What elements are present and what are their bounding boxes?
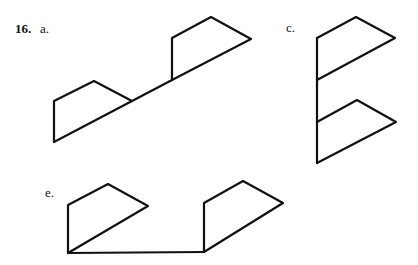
diagram-canvas: 16. a. c. e. (0, 0, 418, 265)
figures-svg (0, 0, 418, 265)
figure-a-right-flag (172, 17, 251, 80)
figure-a-baseline (54, 80, 172, 142)
figure-e-baseline (68, 252, 204, 253)
figure-c (317, 17, 396, 163)
figure-e-left-flag (68, 184, 148, 253)
figure-a (54, 17, 251, 142)
figure-c-bottom-flag (317, 100, 396, 163)
figure-c-top-flag (317, 17, 395, 80)
figure-e-right-flag (204, 181, 283, 252)
figure-e (68, 181, 283, 253)
figure-a-left-flag (54, 81, 132, 142)
